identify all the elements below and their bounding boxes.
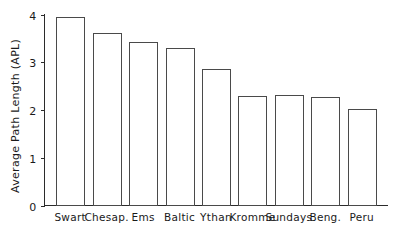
bar (57, 18, 85, 206)
x-tick-label-group: SwartChesap.EmsBalticYthanKrommeSundaysB… (54, 211, 374, 223)
y-tick-label: 3 (29, 57, 36, 70)
y-tick-group: 01234 (29, 10, 44, 214)
y-tick-label: 0 (29, 201, 36, 214)
y-axis-title-group: Average Path Length (APL) (9, 39, 22, 193)
chart-canvas: Average Path Length (APL) 01234 SwartChe… (0, 0, 406, 239)
y-axis-title: Average Path Length (APL) (9, 39, 22, 193)
bar-chart: Average Path Length (APL) 01234 SwartChe… (0, 0, 406, 239)
bar (276, 96, 304, 206)
bar-series (57, 18, 377, 206)
bar (203, 70, 231, 206)
y-tick-label: 4 (29, 10, 36, 23)
x-tick-label: Ythan (199, 211, 232, 223)
y-tick-label: 2 (29, 105, 36, 118)
x-tick-label: Chesap. (84, 211, 128, 223)
bar (94, 34, 122, 206)
x-tick-label: Beng. (309, 211, 341, 223)
x-tick-label: Peru (349, 211, 374, 223)
bar (167, 49, 195, 206)
bar (312, 98, 340, 206)
bar (349, 110, 377, 206)
x-tick-label: Baltic (164, 211, 195, 223)
bar (130, 43, 158, 206)
x-tick-label: Sundays (265, 211, 312, 223)
x-tick-label: Ems (131, 211, 154, 223)
y-tick-label: 1 (29, 153, 36, 166)
x-tick-label: Swart (54, 211, 86, 223)
y-axis: 01234 (29, 10, 44, 214)
bar (239, 97, 267, 206)
